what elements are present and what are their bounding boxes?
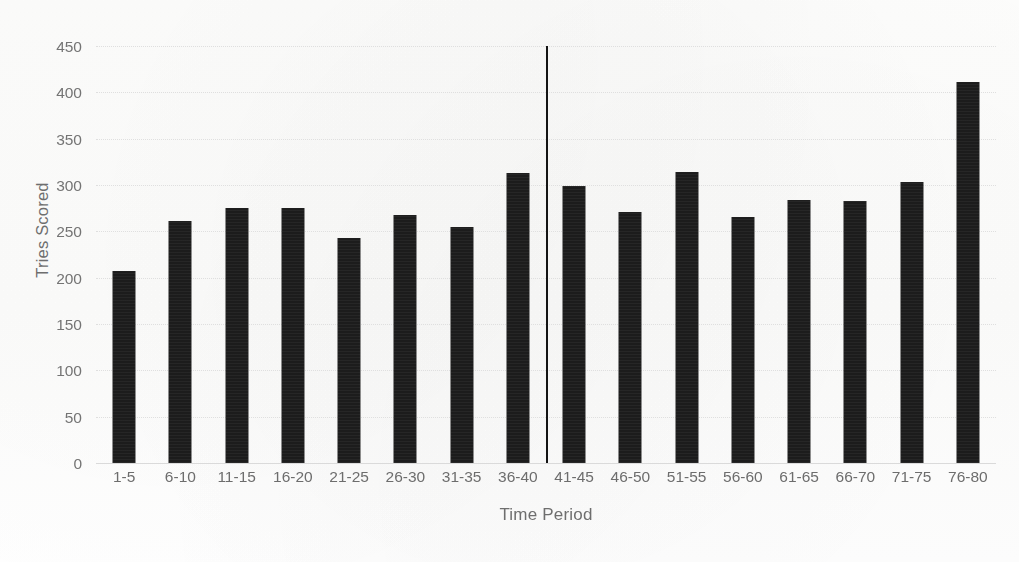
x-tick-label: 66-70 [827,468,883,485]
half-time-divider-line [546,46,548,463]
gridline-0: 0 [96,463,996,464]
bar-slot [715,46,771,463]
y-tick-label-250: 250 [56,224,82,240]
bar-slot [490,46,546,463]
x-tick-label: 26-30 [377,468,433,485]
bar[interactable] [506,173,529,463]
y-tick-label-450: 450 [56,39,82,55]
bar[interactable] [619,212,642,463]
bar-slot [827,46,883,463]
x-tick-label: 71-75 [884,468,940,485]
bar[interactable] [788,200,811,463]
bar[interactable] [281,208,304,463]
bar-slot [152,46,208,463]
y-tick-label-150: 150 [56,317,82,333]
bar-slot [321,46,377,463]
bar[interactable] [338,238,361,463]
bar[interactable] [844,201,867,463]
bar[interactable] [225,208,248,463]
bar-slot [602,46,658,463]
bar-slot [659,46,715,463]
bar-slot [546,46,602,463]
x-tick-label: 21-25 [321,468,377,485]
y-tick-label-300: 300 [56,178,82,194]
y-tick-label-400: 400 [56,85,82,101]
y-tick-label-350: 350 [56,132,82,148]
x-tick-label: 41-45 [546,468,602,485]
bar[interactable] [563,186,586,463]
x-tick-label: 56-60 [715,468,771,485]
x-tick-label: 16-20 [265,468,321,485]
x-tick-label: 46-50 [602,468,658,485]
plot-area: 050100150200250300350400450 [96,46,996,463]
bar[interactable] [394,215,417,463]
x-tick-label: 31-35 [434,468,490,485]
bar[interactable] [900,182,923,463]
y-tick-label-200: 200 [56,271,82,287]
bar[interactable] [675,172,698,463]
x-tick-label: 36-40 [490,468,546,485]
bar[interactable] [169,221,192,463]
x-tick-label: 76-80 [940,468,996,485]
y-tick-label-100: 100 [56,363,82,379]
bar-slot [884,46,940,463]
x-tick-label: 11-15 [209,468,265,485]
x-axis-tick-labels: 1-56-1011-1516-2021-2526-3031-3536-4041-… [96,468,996,494]
bar-slot [96,46,152,463]
bar[interactable] [956,82,979,463]
x-tick-label: 1-5 [96,468,152,485]
bar-slot [265,46,321,463]
bar-chart-figure: Tries Scored 050100150200250300350400450… [0,0,1019,562]
x-tick-label: 6-10 [152,468,208,485]
bar-slot [209,46,265,463]
x-tick-label: 61-65 [771,468,827,485]
bar[interactable] [113,271,136,463]
bar-slot [377,46,433,463]
bar-slot [434,46,490,463]
bar-slot [940,46,996,463]
bar-slot [771,46,827,463]
x-axis-title: Time Period [96,505,996,525]
bar[interactable] [731,217,754,463]
bar[interactable] [450,227,473,463]
x-tick-label: 51-55 [659,468,715,485]
y-tick-label-0: 0 [73,456,82,472]
y-tick-label-50: 50 [65,410,82,426]
